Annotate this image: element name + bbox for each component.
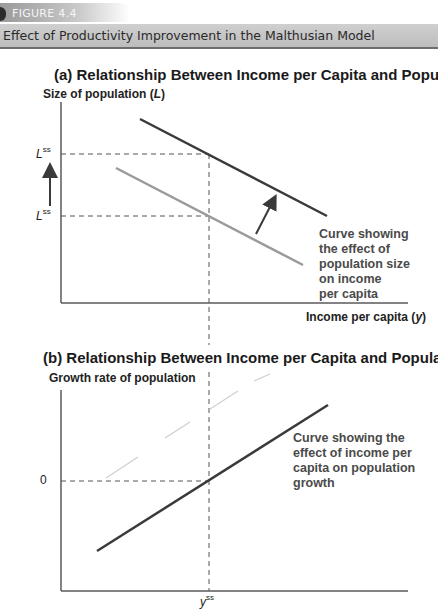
- panel-b-growth-curve: [97, 405, 328, 551]
- panel-a-guides: [61, 154, 209, 345]
- panel-a-axes: [61, 102, 408, 303]
- panel-b-guides: [61, 372, 209, 591]
- panel-b-axes: [61, 390, 408, 591]
- shift-arrow-icon: [256, 201, 273, 234]
- panel-a-new-curve: [140, 119, 327, 216]
- faint-background-curve: [106, 374, 270, 478]
- chart-graphics: [0, 0, 438, 612]
